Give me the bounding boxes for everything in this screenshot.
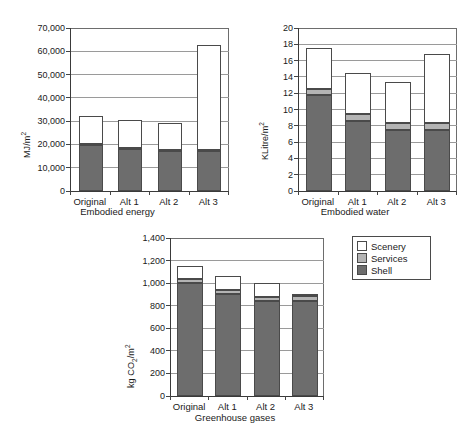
bar-segment-scenery <box>158 123 182 150</box>
legend-swatch-scenery-icon <box>357 241 367 251</box>
bar-segment-shell <box>177 283 203 396</box>
x-tickmark <box>456 191 457 195</box>
chart3-x-axis-label: Greenhouse gases <box>110 412 360 423</box>
bar-segment-services <box>79 144 103 146</box>
legend-label-scenery: Scenery <box>371 241 406 252</box>
x-tickmark <box>377 191 378 195</box>
bar-alt-3 <box>197 28 221 191</box>
bar-segment-services <box>197 150 221 152</box>
bar-alt-1 <box>215 238 241 396</box>
x-tickmark <box>189 191 190 195</box>
y-tick-label: 12 <box>277 88 296 98</box>
bar-alt-2 <box>254 238 280 396</box>
x-tickmark <box>323 396 324 400</box>
bar-segment-scenery <box>79 116 103 144</box>
x-tickmark <box>228 191 229 195</box>
x-tickmark <box>208 396 209 400</box>
bar-original <box>306 28 332 191</box>
y-tick-label: 10,000 <box>17 163 68 173</box>
y-tick-label: 4 <box>277 153 296 163</box>
y-tick-label: 70,000 <box>17 23 68 33</box>
y-tick-label: 14 <box>277 72 296 82</box>
x-tick-label: Alt 2 <box>256 401 275 412</box>
x-tickmark <box>149 191 150 195</box>
y-tick-label: 20,000 <box>17 139 68 149</box>
bar-segment-scenery <box>292 294 318 296</box>
bar-segment-services <box>215 290 241 295</box>
bar-segment-shell <box>158 151 182 191</box>
x-tickmark <box>110 191 111 195</box>
x-tickmark <box>338 191 339 195</box>
x-tickmark <box>170 396 171 400</box>
y-tick-label: 1,400 <box>131 233 168 243</box>
chart2-axes <box>298 28 457 192</box>
bar-original <box>79 28 103 191</box>
y-tick-label: 2 <box>277 170 296 180</box>
y-tick-label: 30,000 <box>17 116 68 126</box>
legend-item-scenery[interactable]: Scenery <box>357 240 425 252</box>
y-tick-label: 0 <box>17 186 68 196</box>
chart3-plot-area: 02004006008001,0001,2001,400 OriginalAlt… <box>170 238 325 398</box>
x-tickmark <box>285 396 286 400</box>
y-tick-label: 50,000 <box>17 70 68 80</box>
legend-label-shell: Shell <box>371 265 392 276</box>
chart1-x-axis-label: Embodied energy <box>0 206 235 217</box>
y-tick-label: 6 <box>277 137 296 147</box>
y-tick-label: 40,000 <box>17 93 68 103</box>
bar-segment-scenery <box>215 276 241 290</box>
bar-segment-services <box>254 297 280 301</box>
bar-segment-scenery <box>345 73 371 115</box>
legend-item-shell[interactable]: Shell <box>357 264 425 276</box>
x-tickmark <box>298 191 299 195</box>
y-tick-label: 400 <box>131 346 168 356</box>
x-tickmark <box>417 191 418 195</box>
bar-segment-scenery <box>177 266 203 279</box>
bar-segment-shell <box>79 145 103 191</box>
bar-segment-shell <box>292 301 318 396</box>
bar-segment-services <box>385 123 411 130</box>
y-tick-label: 1,000 <box>131 278 168 288</box>
bar-segment-services <box>177 279 203 283</box>
y-tick-label: 0 <box>131 391 168 401</box>
y-tick-label: 20 <box>277 23 296 33</box>
chart3-axes <box>170 238 324 397</box>
chart1-plot-area: 010,00020,00030,00040,00050,00060,00070,… <box>70 28 230 193</box>
chart2-x-axis-label: Embodied water <box>240 206 470 217</box>
bar-alt-1 <box>118 28 142 191</box>
y-tick-label: 1,200 <box>131 256 168 266</box>
bar-segment-services <box>118 148 142 150</box>
y-tick-label: 10 <box>277 105 296 115</box>
y-tick-label: 60,000 <box>17 46 68 56</box>
bar-segment-scenery <box>197 45 221 150</box>
chart-embodied-water: KLitre/m2 02468101214161820 OriginalAlt … <box>240 8 470 218</box>
bar-alt-2 <box>385 28 411 191</box>
legend-swatch-shell-icon <box>357 265 367 275</box>
chart-embodied-energy: MJ/m2 010,00020,00030,00040,00050,00060,… <box>0 8 235 218</box>
legend-swatch-services-icon <box>357 253 367 263</box>
bar-segment-services <box>345 114 371 121</box>
y-tick-label: 600 <box>131 323 168 333</box>
bar-segment-shell <box>118 149 142 191</box>
bar-segment-shell <box>385 130 411 191</box>
bar-segment-scenery <box>254 283 280 297</box>
bar-segment-shell <box>345 121 371 191</box>
bar-segment-shell <box>197 151 221 191</box>
chart2-plot-area: 02468101214161820 OriginalAlt 1Alt 2Alt … <box>298 28 458 193</box>
chart-page: { "legend": { "position": "right-of-char… <box>0 0 470 448</box>
bar-segment-services <box>306 89 332 95</box>
x-tick-label: Original <box>173 401 206 412</box>
bar-segment-shell <box>215 294 241 396</box>
bar-alt-3 <box>292 238 318 396</box>
x-tickmark <box>247 396 248 400</box>
legend-item-services[interactable]: Services <box>357 252 425 264</box>
y-tick-label: 0 <box>277 186 296 196</box>
bar-alt-2 <box>158 28 182 191</box>
bar-alt-3 <box>424 28 450 191</box>
chart1-axes <box>70 28 229 192</box>
y-tick-label: 16 <box>277 56 296 66</box>
y-tick-label: 200 <box>131 368 168 378</box>
bar-alt-1 <box>345 28 371 191</box>
bar-segment-services <box>424 123 450 130</box>
y-tick-label: 18 <box>277 39 296 49</box>
bar-segment-services <box>158 150 182 152</box>
